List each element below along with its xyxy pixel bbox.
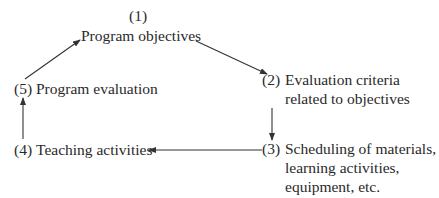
node-5-number: (5) xyxy=(14,79,32,98)
node-3-label-line1: Scheduling of materials, xyxy=(285,139,436,158)
node-5-label: Program evaluation xyxy=(36,79,158,98)
node-4-label: Teaching activities xyxy=(36,140,152,159)
node-2-number: (2) xyxy=(262,70,280,89)
node-1-label: Program objectives xyxy=(81,26,201,45)
arrow-5-to-1 xyxy=(25,40,80,79)
arrow-1-to-2 xyxy=(196,41,267,74)
node-3-number: (3) xyxy=(262,139,280,158)
node-4-number: (4) xyxy=(14,140,32,159)
node-2-label-line2: related to objectives xyxy=(285,89,410,108)
node-3-label-line2: learning activities, xyxy=(285,158,400,177)
node-2-label-line1: Evaluation criteria xyxy=(285,70,400,89)
node-3-label-line3: equipment, etc. xyxy=(285,177,380,196)
node-1-number: (1) xyxy=(129,6,147,25)
